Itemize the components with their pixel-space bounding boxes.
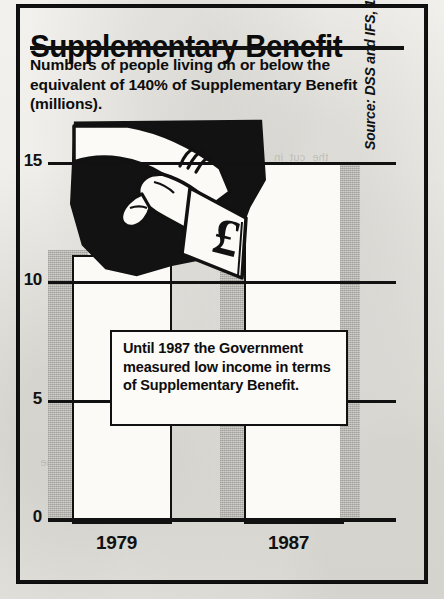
source-credit: Source: DSS and IFS, 1990 (362, 0, 378, 150)
y-axis-label-15: 15 (2, 151, 42, 171)
callout-box: Until 1987 the Government measured low i… (110, 330, 348, 426)
y-tick-15 (48, 162, 396, 165)
hand-and-banknote-svg: £ (70, 118, 266, 303)
y-axis-label-0: 0 (2, 507, 42, 527)
callout-text: Until 1987 the Government measured low i… (123, 339, 337, 395)
x-axis-line (48, 518, 396, 522)
chart-subtitle: Numbers of people living on or below the… (30, 55, 390, 114)
y-tick-10 (48, 281, 396, 284)
x-axis-label-1987: 1987 (268, 532, 309, 554)
title-rule (30, 46, 404, 50)
y-axis-label-5: 5 (2, 389, 42, 409)
bar-chart-plot: £ 15 10 5 0 1979 1987 Until 1987 the Gov… (24, 118, 404, 570)
hand-holding-banknote-illustration: £ (70, 118, 266, 298)
x-axis-label-1979: 1979 (96, 532, 137, 554)
y-axis-label-10: 10 (2, 270, 42, 290)
